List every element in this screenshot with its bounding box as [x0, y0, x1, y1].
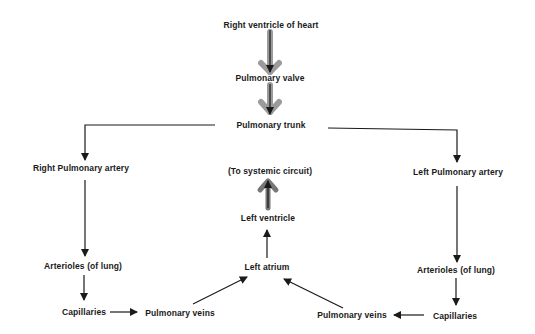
node-systemic-circuit: (To systemic circuit)	[228, 166, 312, 176]
node-right-pulmonary-artery: Right Pulmonary artery	[33, 163, 129, 173]
node-left-pulmonary-artery: Left Pulmonary artery	[413, 167, 503, 177]
node-right-ventricle: Right ventricle of heart	[224, 20, 319, 30]
node-pulmonary-trunk: Pulmonary trunk	[236, 120, 305, 130]
pulmonary-circulation-diagram: Right ventricle of heart Pulmonary valve…	[0, 0, 535, 334]
node-left-atrium: Left atrium	[244, 262, 289, 272]
node-left-ventricle: Left ventricle	[241, 213, 295, 223]
node-arterioles-right: Arterioles (of lung)	[44, 261, 122, 271]
node-pulmonary-veins-right: Pulmonary veins	[145, 308, 215, 318]
node-capillaries-right: Capillaries	[62, 307, 106, 317]
node-pulmonary-valve: Pulmonary valve	[235, 73, 304, 83]
node-pulmonary-veins-left: Pulmonary veins	[317, 310, 387, 320]
node-capillaries-left: Capillaries	[433, 311, 477, 321]
node-arterioles-left: Arterioles (of lung)	[417, 265, 495, 275]
